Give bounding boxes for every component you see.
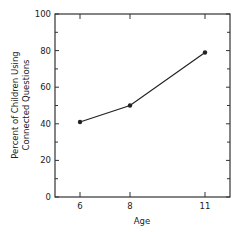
data-point xyxy=(78,120,82,124)
y-tick-label: 20 xyxy=(40,155,51,165)
data-series xyxy=(78,50,207,124)
y-axis-label-line-2: Connected Questions xyxy=(21,59,31,150)
y-axis-label-line-1: Percent of Children Using xyxy=(10,51,20,158)
y-tick-label: 60 xyxy=(40,82,51,92)
y-tick-label: 100 xyxy=(35,9,51,19)
y-axis-ticks: 020406080100 xyxy=(35,9,230,202)
y-tick-label: 80 xyxy=(40,46,51,56)
y-axis-label: Percent of Children Using Connected Ques… xyxy=(10,51,31,158)
x-axis-label: Age xyxy=(134,216,150,226)
line-chart: 020406080100 6811 Age Percent of Childre… xyxy=(0,0,240,232)
series-line xyxy=(80,52,205,122)
x-tick-label: 6 xyxy=(77,201,82,211)
plot-frame xyxy=(55,14,230,197)
x-tick-label: 8 xyxy=(127,201,132,211)
data-point xyxy=(128,103,132,107)
x-axis-ticks: 6811 xyxy=(77,14,210,211)
y-tick-label: 40 xyxy=(40,119,51,129)
y-tick-label: 0 xyxy=(46,192,51,202)
data-point xyxy=(203,50,207,54)
x-tick-label: 11 xyxy=(200,201,211,211)
chart-canvas: 020406080100 6811 Age Percent of Childre… xyxy=(0,0,240,232)
